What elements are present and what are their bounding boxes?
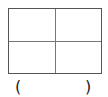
close-parenthesis: ): [85, 78, 91, 96]
horizontal-divider: [9, 41, 101, 42]
divided-rectangle: [8, 8, 102, 74]
open-parenthesis: (: [15, 78, 21, 96]
